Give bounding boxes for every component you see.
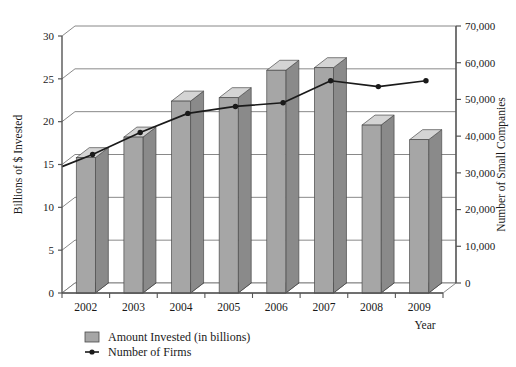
y-axis-title: Billions of $ Invested <box>12 115 24 215</box>
y2-tick-label: 40,000 <box>465 130 496 142</box>
x-tick-label: 2008 <box>360 301 383 313</box>
y-tick-label: 25 <box>43 73 55 85</box>
y-tick-label: 30 <box>43 30 55 42</box>
chart-figure: 051015202530 010,00020,00030,00040,00050… <box>0 0 516 367</box>
y-tick-label: 20 <box>43 115 55 127</box>
x-axis-title: Year <box>414 319 435 331</box>
chart-floor <box>62 283 456 293</box>
legend-swatch-amount-invested <box>85 332 99 342</box>
x-tick-label: 2004 <box>170 301 193 313</box>
y2-tick-label: 30,000 <box>465 167 496 179</box>
legend-marker-number-of-firms <box>89 349 94 354</box>
y2-tick-label: 50,000 <box>465 93 496 105</box>
x-tick-label: 2003 <box>122 301 145 313</box>
legend-label-amount-invested: Amount Invested (in billions) <box>108 330 250 344</box>
y-tick-label: 0 <box>49 287 55 299</box>
y-tick-label: 10 <box>43 201 55 213</box>
y2-tick-label: 60,000 <box>465 57 496 69</box>
y2-tick-label: 10,000 <box>465 240 496 252</box>
legend-label-number-of-firms: Number of Firms <box>108 345 192 359</box>
x-tick-label: 2002 <box>74 301 97 313</box>
y-tick-label: 5 <box>49 244 55 256</box>
x-tick-label: 2005 <box>217 301 240 313</box>
y2-tick-label: 0 <box>465 277 471 289</box>
x-tick-label: 2009 <box>408 301 431 313</box>
y2-tick-label: 70,000 <box>465 20 496 32</box>
y-tick-label: 15 <box>43 158 55 170</box>
x-tick-label: 2007 <box>312 301 335 313</box>
y2-tick-label: 20,000 <box>465 203 496 215</box>
y2-axis-title: Number of Small Companies <box>495 97 508 232</box>
x-tick-label: 2006 <box>265 301 288 313</box>
combo-chart: 051015202530 010,00020,00030,00040,00050… <box>0 0 516 367</box>
